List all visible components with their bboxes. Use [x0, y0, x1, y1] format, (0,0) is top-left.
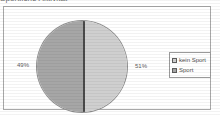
slice-label-sport: 49%	[17, 62, 29, 69]
chart-frame: 49% 51% kein Sport Sport	[3, 6, 211, 110]
legend-swatch-icon	[172, 58, 177, 63]
slice-label-kein-sport: 51%	[135, 63, 147, 70]
pie-chart-screenshot: Sportliche Aktivität 49% 51% kein Sport …	[0, 0, 220, 115]
legend-item-sport: Sport	[172, 65, 210, 75]
legend-label-kein-sport: kein Sport	[179, 57, 206, 64]
pie-slices	[37, 21, 127, 112]
legend-item-kein-sport: kein Sport	[172, 55, 210, 65]
legend-label-sport: Sport	[179, 67, 193, 74]
chart-legend: kein Sport Sport	[169, 52, 211, 78]
chart-title-text: Sportliche Aktivität	[0, 0, 132, 3]
chart-title-cropped: Sportliche Aktivität	[0, 0, 132, 3]
legend-swatch-icon	[172, 68, 177, 73]
pie-chart	[37, 21, 127, 112]
